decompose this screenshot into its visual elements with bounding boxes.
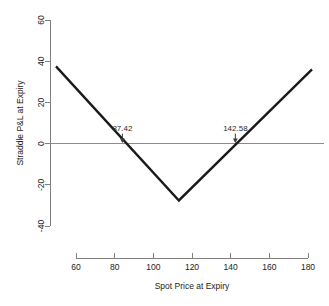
straddle-payoff-chart: -40-200204060Straddle P&L at Expiry60801… — [0, 0, 329, 306]
upper-breakeven-annotation: 142.58 — [223, 124, 248, 144]
x-axis-tick-label: 100 — [146, 262, 160, 272]
x-axis-title: Spot Price at Expiry — [155, 281, 230, 291]
y-axis-tick-label: 40 — [36, 56, 46, 66]
y-axis-tick-label: 0 — [36, 141, 46, 146]
x-axis-tick-label: 80 — [110, 262, 120, 272]
y-axis-tick-label: 20 — [36, 97, 46, 107]
chart-canvas: -40-200204060Straddle P&L at Expiry60801… — [0, 0, 329, 306]
x-axis-tick-label: 60 — [71, 262, 81, 272]
x-axis-tick-label: 120 — [185, 262, 199, 272]
x-axis-tick-label: 160 — [262, 262, 276, 272]
lower-breakeven-annotation: 87.42 — [112, 124, 133, 144]
y-axis-tick-label: -20 — [36, 178, 46, 191]
y-axis-title: Straddle P&L at Expiry — [15, 80, 25, 166]
payoff-series-line — [56, 66, 312, 200]
upper-breakeven-label: 142.58 — [223, 124, 248, 133]
y-axis-tick-label: 60 — [36, 15, 46, 25]
lower-breakeven-label: 87.42 — [112, 124, 133, 133]
x-axis-tick-label: 140 — [224, 262, 238, 272]
x-axis-tick-label: 180 — [301, 262, 315, 272]
y-axis-tick-label: -40 — [36, 220, 46, 233]
